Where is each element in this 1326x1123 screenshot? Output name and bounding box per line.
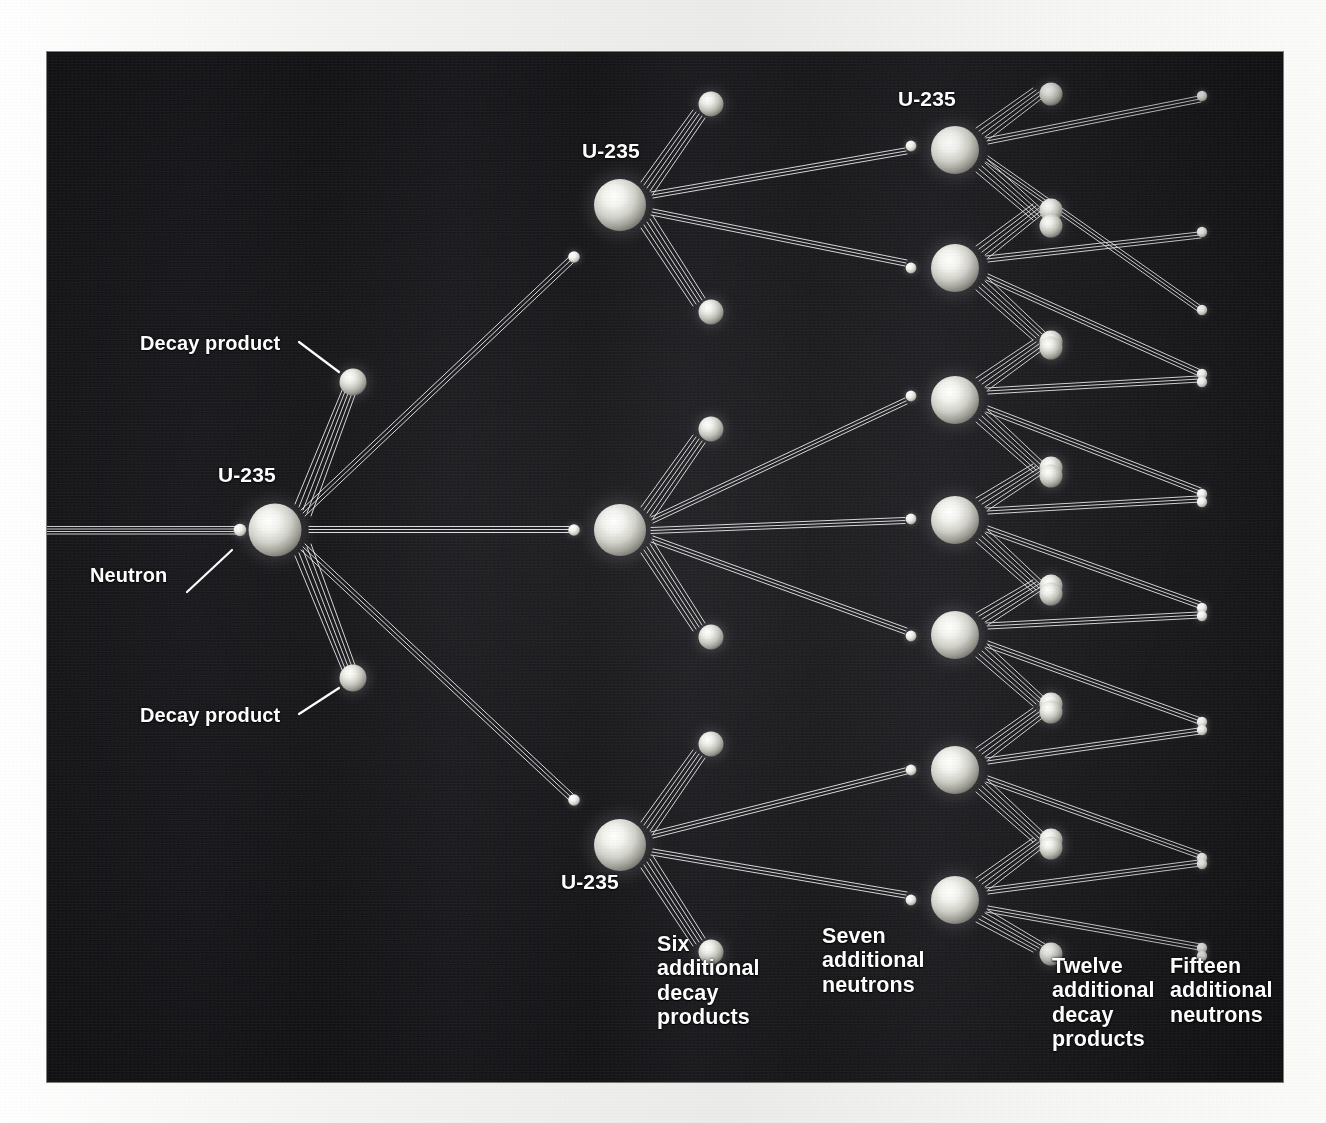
u235-nuclei-gen3 (919, 114, 991, 936)
caption-fifteen-neutrons: Fifteen additional neutrons (1170, 954, 1273, 1027)
u235-nucleus-gen2-top (580, 165, 660, 245)
fission-diagram-panel: Decay product Decay product Neutron U-23… (47, 52, 1283, 1082)
neutron-label: Neutron (90, 564, 167, 587)
u235-label-gen2-bottom: U-235 (561, 870, 619, 894)
u235-label-gen1: U-235 (218, 463, 276, 487)
u235-label-gen3-top: U-235 (898, 87, 956, 111)
caption-six-decay-products: Six additional decay products (657, 932, 760, 1029)
decay-product-gen1-bottom (331, 656, 375, 700)
neutron-gen1-to-gen2-middle (564, 520, 584, 540)
incoming-neutron (229, 519, 251, 541)
u235-label-gen2-top: U-235 (582, 139, 640, 163)
fission-scene (47, 52, 1283, 1082)
u235-nucleus-gen2-middle (580, 490, 660, 570)
neutron-gen1-to-gen2-bottom (564, 790, 584, 810)
decay-product-gen1-top (331, 360, 375, 404)
neutrons-gen2-to-gen3 (902, 137, 921, 910)
page-background: Decay product Decay product Neutron U-23… (0, 0, 1326, 1123)
caption-twelve-decay-products: Twelve additional decay products (1052, 954, 1155, 1051)
decay-product-bottom-label: Decay product (140, 704, 280, 727)
decay-product-top-label: Decay product (140, 332, 280, 355)
decay-products-gen3 (1033, 76, 1069, 972)
caption-seven-neutrons: Seven additional neutrons (822, 924, 925, 997)
neutron-gen1-to-gen2-top (564, 247, 584, 267)
neutrons-gen3-final (1193, 87, 1211, 965)
